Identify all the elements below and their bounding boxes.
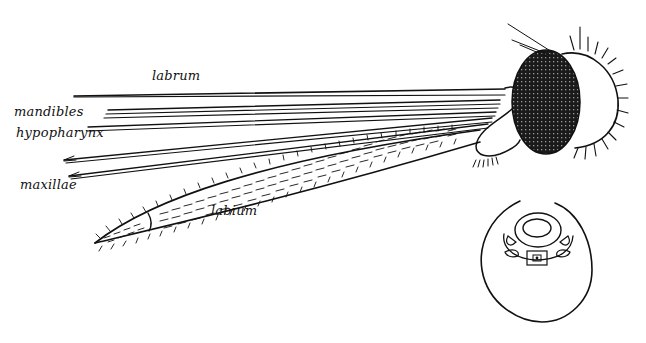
label-maxillae: maxillae (20, 177, 77, 192)
labrum-stylet (74, 89, 505, 97)
mandibles-stylets (104, 100, 500, 118)
label-hypopharynx: hypopharynx (16, 125, 104, 140)
hypopharynx-stylet (87, 112, 496, 131)
illustration (0, 0, 646, 343)
label-mandibles: mandibles (14, 104, 84, 119)
maxillae-stylets (64, 118, 492, 179)
cross-section (481, 201, 592, 322)
labium-sheath (95, 125, 480, 251)
mosquito-mouthparts-diagram: labrum mandibles hypopharynx maxillae la… (0, 0, 646, 343)
label-labium: labium (211, 203, 257, 218)
compound-eye (512, 50, 580, 154)
label-labrum: labrum (152, 68, 200, 83)
